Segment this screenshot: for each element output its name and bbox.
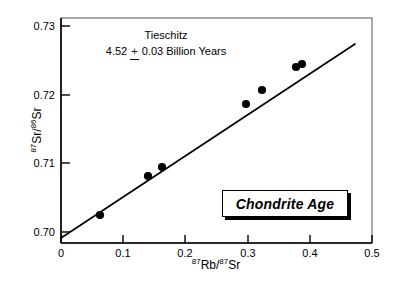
data-point <box>298 60 306 68</box>
x-axis-title-mid: Rb/ <box>201 258 220 272</box>
y-tick-label-0.72: 0.72 <box>28 90 55 101</box>
y-axis-title-tail: Sr <box>30 107 44 119</box>
x-tick-label-0: 0 <box>58 248 64 259</box>
y-axis-title-sup-1: 87 <box>29 144 38 153</box>
chondrite-age-callout: Chondrite Age <box>222 190 348 217</box>
sample-annotation: Tieschitz 4.52 + 0.03 Billion Years <box>71 28 261 60</box>
isochron-chart-figure: 0 0.1 0.2 0.3 0.4 0.5 0.70 0.71 0.72 0.7… <box>0 0 393 290</box>
sample-name-label: Tieschitz <box>71 28 261 44</box>
y-axis-title-mid: Sr/ <box>30 128 44 143</box>
y-tick-label-0.70: 0.70 <box>28 227 55 238</box>
y-tick-label-0.73: 0.73 <box>28 21 55 32</box>
x-tick-label-0.2: 0.2 <box>177 248 192 259</box>
y-tick-label-0.71: 0.71 <box>28 158 55 169</box>
data-point <box>144 172 152 180</box>
data-point <box>158 163 166 171</box>
y-axis-title-sup-2: 86 <box>29 119 38 128</box>
data-point <box>242 100 250 108</box>
age-suffix: 0.03 Billion Years <box>139 45 226 57</box>
age-value-label: 4.52 + 0.03 Billion Years <box>71 44 261 60</box>
x-axis-title-tail: Sr <box>228 258 240 272</box>
x-tick-label-0.1: 0.1 <box>115 248 130 259</box>
x-axis-title-sup-1: 87 <box>192 257 201 266</box>
data-point <box>258 86 266 94</box>
x-axis-title-sup-2: 87 <box>219 257 228 266</box>
age-prefix: 4.52 <box>106 45 130 57</box>
chondrite-age-label: Chondrite Age <box>236 196 335 212</box>
x-tick-label-0.3: 0.3 <box>240 248 255 259</box>
plus-minus-symbol: + <box>130 44 138 60</box>
y-axis-title: 87Sr/86Sr <box>31 107 43 152</box>
x-tick-label-0.4: 0.4 <box>302 248 317 259</box>
data-point <box>96 211 104 219</box>
x-tick-label-0.5: 0.5 <box>364 248 379 259</box>
x-axis-title: 87Rb/87Sr <box>192 259 241 271</box>
